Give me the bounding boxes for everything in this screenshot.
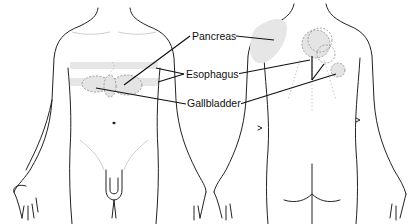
pancreas-region-back xyxy=(250,19,287,63)
esophagus-region-back xyxy=(302,30,330,58)
label-gallbladder: Gallbladder xyxy=(187,97,241,109)
label-esophagus: Esophagus xyxy=(186,68,239,80)
esophagus-region-front xyxy=(104,75,116,97)
label-pancreas: Pancreas xyxy=(192,30,236,42)
referred-pain-diagram: Pancreas Esophagus Gallbladder xyxy=(0,0,411,224)
front-body-figure xyxy=(14,8,206,224)
